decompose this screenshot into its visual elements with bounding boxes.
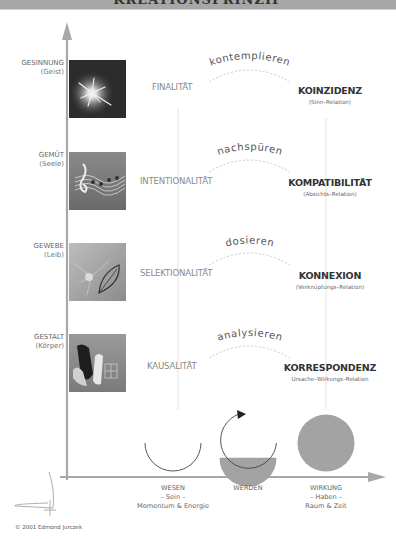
level-label-gewebe: GEWEBE (Leib) bbox=[2, 242, 64, 260]
werden-circle-icon bbox=[220, 410, 277, 486]
verb-nachspueren: nachspüren bbox=[216, 141, 285, 157]
level-title: GEMÜT bbox=[2, 151, 64, 160]
relation-title-konnexion: KONNEXION bbox=[255, 270, 396, 281]
relation-subtitle: (Absichts–Relation) bbox=[255, 191, 396, 197]
horizontal-axis bbox=[60, 472, 386, 482]
level-subtitle: (Geist) bbox=[2, 68, 64, 77]
level-title: GESTALT bbox=[2, 333, 64, 342]
copyright-notice: © 2001 Edmond Jurczek bbox=[15, 524, 82, 530]
bottom-label-wirkung: WIRKUNG – Haben – Raum & Zeit bbox=[276, 484, 376, 511]
star-burst-image bbox=[69, 60, 126, 118]
verb-dosieren: dosieren bbox=[224, 234, 275, 248]
bottom-line2: – Sein – bbox=[123, 493, 223, 502]
bottom-line2: – Haben – bbox=[276, 493, 376, 502]
level-title: GEWEBE bbox=[2, 242, 64, 251]
middle-label-intentionalitaet: INTENTIONALITÄT bbox=[140, 176, 212, 186]
level-label-gemuet: GEMÜT (Seele) bbox=[2, 151, 64, 169]
level-title: GESINNUNG bbox=[2, 59, 64, 68]
relation-title-kompatibilitaet: KOMPATIBILITÄT bbox=[255, 177, 396, 188]
middle-label-finalitaet: FINALITÄT bbox=[152, 82, 192, 92]
relation-subtitle: (Verknüpfungs–Relation) bbox=[255, 284, 396, 290]
relation-subtitle: (Sinn–Relation) bbox=[255, 99, 396, 105]
crystals-image bbox=[69, 334, 126, 392]
middle-label-kausalitaet: KAUSALITÄT bbox=[147, 361, 197, 371]
relation-title-koinzidenz: KOINZIDENZ bbox=[255, 85, 396, 96]
level-subtitle: (Leib) bbox=[2, 251, 64, 260]
leaf-image bbox=[69, 243, 126, 301]
relation-title-korrespondenz: KORRESPONDENZ bbox=[255, 362, 396, 373]
bottom-title: WIRKUNG bbox=[276, 484, 376, 493]
music-notes-image bbox=[69, 152, 126, 210]
verb-kontemplieren: kontemplieren bbox=[208, 50, 292, 68]
level-subtitle: (Körper) bbox=[2, 342, 64, 351]
arcs bbox=[209, 70, 290, 358]
level-label-gestalt: GESTALT (Körper) bbox=[2, 333, 64, 351]
wirkung-filled-circle-icon bbox=[298, 415, 355, 472]
middle-label-selektionalitaet: SELEKTIONALITÄT bbox=[140, 268, 212, 278]
relation-subtitle: Ursache–Wirkungs–Relation bbox=[255, 376, 396, 382]
signature-logo-icon bbox=[15, 472, 56, 516]
bottom-line3: Momentum & Energie bbox=[123, 502, 223, 511]
bottom-line3: Raum & Zeit bbox=[276, 502, 376, 511]
verb-analysieren: analysieren bbox=[216, 327, 284, 343]
werden-arrow-icon bbox=[237, 410, 246, 419]
level-subtitle: (Seele) bbox=[2, 160, 64, 169]
wesen-half-circle-icon bbox=[145, 443, 201, 471]
level-label-gesinnung: GESINNUNG (Geist) bbox=[2, 59, 64, 77]
